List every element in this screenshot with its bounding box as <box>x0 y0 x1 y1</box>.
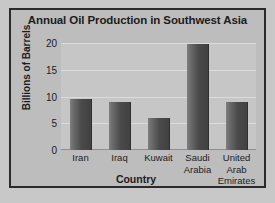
bar <box>70 99 92 150</box>
y-tick-label: 15 <box>46 64 57 75</box>
y-tick-label: 0 <box>51 145 57 156</box>
bar <box>187 44 209 150</box>
x-tick-label: SaudiArabia <box>176 152 220 175</box>
x-tick-label-line: Iran <box>72 152 88 163</box>
y-tick-label: 5 <box>51 118 57 129</box>
y-tick-label: 10 <box>46 91 57 102</box>
x-tick-label-line: Emirates <box>218 175 255 186</box>
x-tick-label: Kuwait <box>137 152 181 164</box>
bar <box>226 102 248 150</box>
bar <box>109 102 131 150</box>
x-tick-label-line: Iraq <box>111 152 127 163</box>
y-tick-label: 20 <box>46 38 57 49</box>
chart-screenshot: Annual Oil Production in Southwest Asia … <box>0 0 275 203</box>
y-axis-tick-labels: 05101520 <box>11 43 61 150</box>
bars-layer <box>61 43 256 150</box>
x-tick-label: Iraq <box>98 152 142 164</box>
x-axis-title: Country <box>61 173 211 185</box>
figure-frame: Annual Oil Production in Southwest Asia … <box>9 8 266 188</box>
bar <box>148 118 170 150</box>
chart-title: Annual Oil Production in Southwest Asia <box>11 14 264 26</box>
x-tick-label: UnitedArabEmirates <box>215 152 259 187</box>
x-tick-label-line: Saudi <box>185 152 209 163</box>
x-tick-label: Iran <box>59 152 103 164</box>
x-tick-label-line: Kuwait <box>144 152 173 163</box>
x-tick-label-line: United <box>223 152 250 163</box>
x-tick-label-line: Arab <box>226 164 246 175</box>
